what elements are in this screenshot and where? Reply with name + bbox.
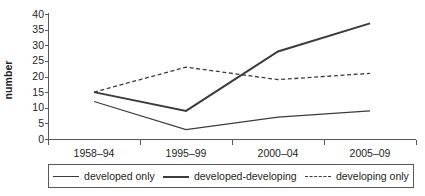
y-axis-tick-mark	[45, 108, 48, 109]
y-axis-tick-mark	[45, 61, 48, 62]
y-axis-tick-mark	[45, 14, 48, 15]
y-axis-tick-mark	[45, 139, 48, 140]
y-axis-tick-mark	[45, 30, 48, 31]
line-thick-icon	[163, 172, 189, 180]
chart-legend: developed onlydeveloped-developingdevelo…	[48, 164, 414, 188]
legend-entry-label: developing only	[336, 170, 409, 182]
y-axis-tick-mark	[45, 123, 48, 124]
legend-entry-label: developed-developing	[194, 170, 297, 182]
line-thin-icon	[53, 172, 79, 180]
y-axis-tick-mark	[45, 92, 48, 93]
y-axis-tick-mark	[45, 45, 48, 46]
line-chart-figure: number 0510152025303540 1958–941995–9920…	[0, 0, 425, 196]
legend-entry-label: developed only	[84, 170, 155, 182]
legend-entry[interactable]: developed only	[53, 170, 155, 182]
series-line	[94, 102, 370, 130]
legend-entry[interactable]: developing only	[305, 170, 409, 182]
series-line	[94, 23, 370, 111]
y-axis-tick-mark	[45, 77, 48, 78]
series-line	[94, 67, 370, 92]
line-dashed-icon	[305, 172, 331, 180]
legend-entry[interactable]: developed-developing	[163, 170, 297, 182]
